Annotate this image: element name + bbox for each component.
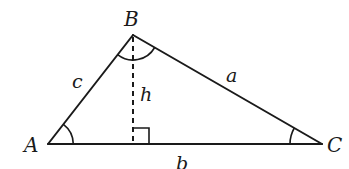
side-label-b: b <box>176 152 188 169</box>
side-label-a: a <box>226 64 237 86</box>
angle-arc-c <box>290 128 294 144</box>
triangle-diagram: B A C c a h b <box>0 0 349 169</box>
right-angle-marker <box>133 128 149 144</box>
angle-arc-a <box>63 124 73 144</box>
vertex-label-c: C <box>327 133 342 157</box>
vertex-label-b: B <box>123 7 139 31</box>
side-label-c: c <box>72 70 83 92</box>
side-c-line <box>48 35 133 144</box>
side-label-h: h <box>140 83 152 105</box>
vertex-label-a: A <box>22 133 38 157</box>
angle-arc-b <box>118 48 155 61</box>
